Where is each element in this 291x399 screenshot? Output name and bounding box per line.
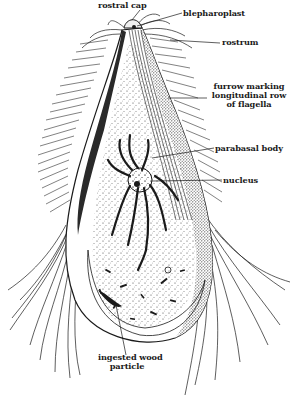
nucleus-shape bbox=[128, 168, 152, 192]
label-furrow-line-3: of flagella bbox=[208, 100, 290, 109]
label-ingested-wood: ingested wood particle bbox=[98, 353, 156, 371]
label-blepharoplast: blepharoplast bbox=[183, 9, 245, 18]
label-rostral-cap: rostral cap bbox=[98, 1, 147, 10]
label-ingested-wood-line-2: particle bbox=[98, 362, 156, 371]
label-parabasal-body: parabasal body bbox=[215, 144, 283, 153]
protozoan-illustration bbox=[0, 0, 291, 399]
label-rostrum: rostrum bbox=[222, 38, 258, 47]
label-nucleus: nucleus bbox=[223, 176, 258, 185]
label-furrow: furrow marking longitudinal row of flage… bbox=[208, 82, 290, 109]
